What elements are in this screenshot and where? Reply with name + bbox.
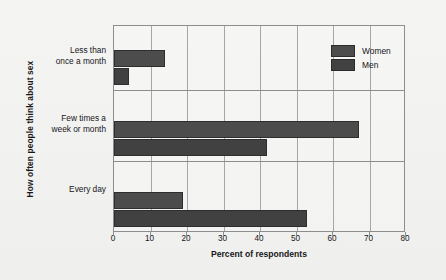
x-tick-mark-80 [405,232,406,236]
category-label-few-times-a-week-or-month: Few times a week or month [10,113,106,134]
bar-women-1 [114,121,359,138]
category-label-line: Every day [10,184,106,195]
x-tick-mark-0 [113,232,114,236]
legend: Women Men [331,44,391,72]
category-label-line: Less than [10,45,106,56]
category-label-line: once a month [10,56,106,67]
legend-item-men: Men [331,58,391,72]
x-tick-mark-70 [369,232,370,236]
bar-men-0 [114,68,129,85]
x-tick-mark-60 [332,232,333,236]
x-tick-mark-50 [296,232,297,236]
legend-label-men: Men [362,60,378,70]
x-tick-mark-40 [259,232,260,236]
bar-women-2 [114,192,183,209]
chart-figure: How often people think about sex Less th… [0,0,446,280]
x-axis-title: Percent of respondents [113,249,405,259]
bar-women-0 [114,50,165,67]
category-label-line: Few times a [10,113,106,124]
legend-swatch-women [331,45,355,57]
x-tick-mark-30 [223,232,224,236]
category-label-less-than-once-a-month: Less than once a month [10,45,106,66]
category-label-every-day: Every day [10,184,106,195]
category-label-line: week or month [10,124,106,135]
category-separator [114,90,404,91]
bar-men-1 [114,139,267,156]
category-separator [114,161,404,162]
x-tick-mark-10 [150,232,151,236]
legend-label-women: Women [362,46,391,56]
legend-swatch-men [331,59,355,71]
bar-men-2 [114,210,307,227]
legend-item-women: Women [331,44,391,58]
x-tick-mark-20 [186,232,187,236]
